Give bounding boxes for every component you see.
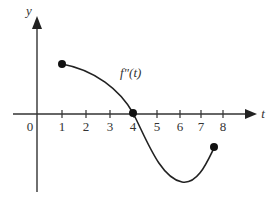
tick-label-7: 7	[198, 119, 205, 134]
tick-label-0: 0	[27, 119, 34, 134]
curve-label: f"(t)	[120, 65, 141, 80]
tick-label-2: 2	[83, 119, 90, 134]
t-axis-arrow-icon	[245, 109, 257, 119]
t-axis-label: t	[261, 106, 265, 121]
chart: 0 1 2 3 4 5 6 7 8 y t f"(t)	[0, 0, 277, 202]
tick-label-3: 3	[107, 119, 114, 134]
start-point	[58, 60, 66, 68]
tick-label-6: 6	[177, 119, 184, 134]
tick-label-1: 1	[59, 119, 66, 134]
tick-label-5: 5	[154, 119, 161, 134]
tick-label-8: 8	[220, 119, 227, 134]
y-axis-label: y	[24, 3, 32, 18]
zero-crossing-point	[129, 109, 137, 117]
end-point	[210, 143, 218, 151]
y-axis-arrow-icon	[32, 16, 42, 29]
tick-label-4: 4	[130, 119, 137, 134]
